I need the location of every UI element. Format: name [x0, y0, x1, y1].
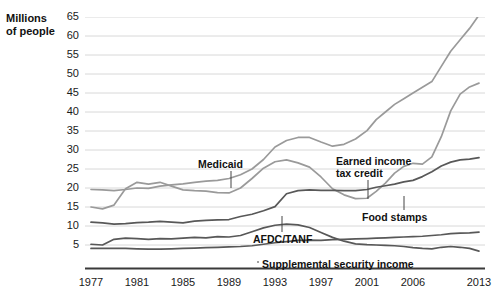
x-axis-tick: 1993	[255, 276, 295, 288]
y-axis-tick: 5	[53, 238, 79, 250]
y-axis-tick: 55	[53, 48, 79, 60]
y-axis-tick: 35	[53, 124, 79, 136]
chart-container: Millions of people 656055504540353025201…	[0, 0, 492, 295]
annotation-eitc-line1: Earned income	[336, 155, 411, 167]
annotation-eitc-line2: tax credit	[336, 167, 411, 179]
y-axis-tick: 40	[53, 105, 79, 117]
annotation-food-stamps: Food stamps	[362, 211, 427, 223]
y-axis-tick: 45	[53, 86, 79, 98]
annotation-earned-income-tax-credit: Earned income tax credit	[336, 155, 411, 179]
x-axis-tick: 1977	[71, 276, 111, 288]
y-axis-tick: 65	[53, 10, 79, 22]
x-axis-tick: 1985	[163, 276, 203, 288]
x-axis-tick: 1989	[209, 276, 249, 288]
annotation-afdc-tanf: AFDC/TANF	[253, 233, 312, 245]
x-axis-tick: 2013	[459, 276, 492, 288]
series-line-food-stamps	[91, 83, 479, 209]
x-axis-tick: 1997	[301, 276, 341, 288]
annotation-medicaid: Medicaid	[198, 158, 243, 170]
y-axis-tick: 20	[53, 181, 79, 193]
annotation-supplemental-security-income: Supplemental security income	[262, 258, 414, 270]
y-axis-tick: 15	[53, 200, 79, 212]
x-axis-tick: 2001	[347, 276, 387, 288]
y-axis-tick: 30	[53, 143, 79, 155]
x-axis-tick: 1981	[117, 276, 157, 288]
x-axis-tick: 2006	[393, 276, 433, 288]
y-axis-tick: 50	[53, 67, 79, 79]
y-axis-tick: 25	[53, 162, 79, 174]
y-axis-tick: 10	[53, 219, 79, 231]
y-axis-tick: 60	[53, 29, 79, 41]
